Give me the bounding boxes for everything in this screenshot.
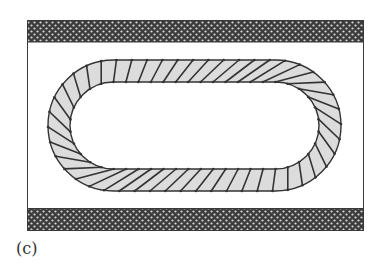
- bottom-hatched-band: [28, 209, 364, 231]
- racetrack-ring-figure: [0, 0, 387, 267]
- top-hatched-band: [28, 21, 364, 43]
- figure-label: (c): [16, 239, 37, 258]
